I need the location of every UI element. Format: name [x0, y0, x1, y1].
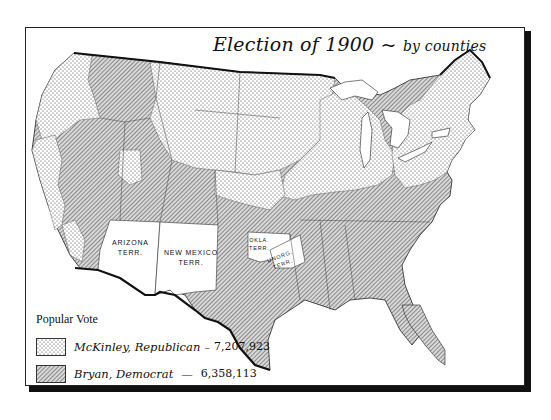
- legend-dash: —: [181, 367, 193, 381]
- legend-votes: 7,207,923: [214, 340, 270, 353]
- legend-dash: –: [204, 340, 210, 354]
- title-separator: ~: [381, 33, 397, 55]
- legend-title: Popular Vote: [36, 312, 270, 327]
- terr-line2: TERR.: [249, 244, 270, 252]
- legend-label: McKinley, Republican: [74, 340, 200, 354]
- legend-votes: 6,358,113: [201, 367, 257, 380]
- legend-item-democrat: Bryan, Democrat — 6,358,113: [36, 360, 270, 387]
- legend: Popular Vote McKinley, Republican – 7,20…: [36, 312, 270, 387]
- legend-label: Bryan, Democrat: [74, 367, 173, 381]
- label-new-mexico-territory: NEW MEXICO TERR.: [164, 248, 218, 268]
- stipple-swatch-icon: [36, 338, 66, 356]
- legend-item-republican: McKinley, Republican – 7,207,923: [36, 333, 270, 360]
- terr-line1: OKLA.: [249, 236, 270, 244]
- terr-line2: TERR.: [164, 258, 218, 268]
- terr-line1: ARIZONA: [112, 238, 149, 248]
- title-main: Election of 1900: [213, 33, 374, 55]
- terr-line1: NEW MEXICO: [164, 248, 218, 258]
- hatch-swatch-icon: [36, 365, 66, 383]
- map-title: Election of 1900 ~ by counties: [213, 33, 486, 55]
- label-arizona-territory: ARIZONA TERR.: [112, 238, 149, 258]
- label-oklahoma-territory: OKLA. TERR.: [249, 236, 270, 252]
- title-sub: by counties: [403, 38, 486, 54]
- terr-line2: TERR.: [112, 248, 149, 258]
